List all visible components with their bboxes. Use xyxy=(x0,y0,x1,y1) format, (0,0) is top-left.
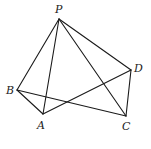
label-C: C xyxy=(122,120,131,133)
vertex-labels: P B A C D xyxy=(5,3,143,133)
edge-AD xyxy=(43,70,131,114)
label-B: B xyxy=(5,84,14,97)
label-A: A xyxy=(36,119,45,132)
edge-PD xyxy=(59,19,131,70)
label-D: D xyxy=(133,62,143,75)
pyramid-diagram: P B A C D xyxy=(0,0,151,149)
edge-BC xyxy=(17,90,126,116)
label-P: P xyxy=(54,3,63,16)
edge-DC xyxy=(126,70,131,116)
edges xyxy=(17,19,131,116)
